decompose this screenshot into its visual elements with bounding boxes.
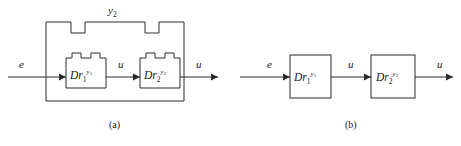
arrowhead-middle-a: [133, 74, 140, 81]
arrowhead-output-a: [211, 74, 218, 81]
panel-a-caption: (a): [109, 119, 120, 131]
signal-label-b-input: e: [267, 58, 272, 70]
block-diagram-figure: Dr1y1 Dr2y2 e u u y2 (a): [0, 0, 461, 146]
arrowhead-input-a: [59, 74, 66, 81]
figure-container: Dr1y1 Dr2y2 e u u y2 (a): [0, 0, 461, 146]
signal-label-a-output: u: [196, 58, 202, 70]
panel-a: Dr1y1 Dr2y2 e u u y2 (a): [8, 4, 218, 131]
signal-label-a-middle: u: [118, 58, 124, 70]
panel-b-caption: (b): [345, 119, 357, 131]
signal-label-b-middle: u: [348, 58, 354, 70]
arrowhead-input-b: [283, 74, 290, 81]
arrowhead-output-b: [446, 74, 453, 81]
signal-label-a-input: e: [19, 58, 24, 70]
signal-label-b-output: u: [437, 58, 443, 70]
feedback-signal-label-a: y2: [107, 4, 117, 19]
arrowhead-middle-b: [364, 74, 371, 81]
panel-b: Dr1y1 Dr2y2 e u u (b): [240, 55, 453, 131]
